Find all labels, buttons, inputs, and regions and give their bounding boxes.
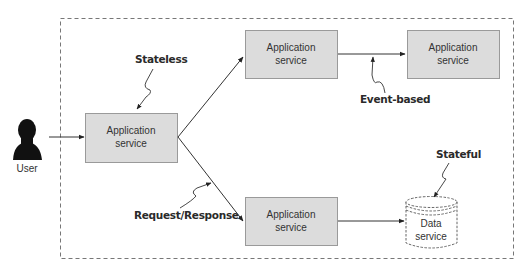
squiggle-request-response	[180, 183, 211, 208]
annotation-stateful: Stateful	[436, 148, 481, 160]
architecture-diagram: User Application service Application ser…	[0, 0, 531, 271]
service-box-top-middle: Application service	[246, 31, 338, 79]
service-box-entry: Application service	[86, 114, 178, 163]
squiggle-stateless	[137, 69, 153, 109]
svg-text:Application: Application	[429, 42, 478, 53]
annotation-request-response: Request/Response	[134, 209, 239, 221]
squiggle-event-based	[372, 57, 385, 93]
svg-text:Application: Application	[267, 209, 316, 220]
annotation-stateless: Stateless	[135, 53, 187, 65]
svg-text:service: service	[437, 55, 469, 66]
data-service-label-line2: service	[415, 231, 447, 242]
annotation-event-based: Event-based	[360, 93, 430, 105]
svg-text:service: service	[275, 222, 307, 233]
user-label: User	[16, 163, 38, 174]
svg-text:Application: Application	[267, 42, 316, 53]
data-service-label-line1: Data	[420, 218, 442, 229]
svg-text:service: service	[115, 138, 147, 149]
svg-text:Application: Application	[107, 125, 156, 136]
entry-to-top-arrow	[178, 57, 243, 137]
person-silhouette-icon	[13, 119, 42, 160]
service-box-top-right: Application service	[408, 31, 500, 79]
squiggle-stateful	[434, 163, 449, 197]
svg-text:service: service	[275, 55, 307, 66]
service-box-bottom-middle: Application service	[246, 198, 338, 246]
